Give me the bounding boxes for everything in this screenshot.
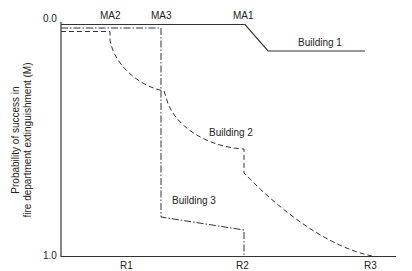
x-tick-r3: R3 (364, 260, 377, 271)
x-tick-r2: R2 (236, 260, 249, 271)
x-tick-r1: R1 (120, 260, 133, 271)
annotation-building-2: Building 2 (209, 127, 253, 138)
y-tick-0: 0.0 (43, 13, 57, 24)
series-building-2 (61, 32, 372, 257)
y-axis-title-line-1: Probability of success in (10, 62, 22, 217)
marker-ma3: MA3 (151, 10, 172, 21)
chart-plot-area (0, 0, 412, 271)
series-building-3 (61, 28, 244, 256)
annotation-building-1: Building 1 (298, 37, 342, 48)
marker-ma1: MA1 (233, 10, 254, 21)
y-tick-1: 1.0 (43, 250, 57, 261)
y-axis-title-line-2: fire department extinguishment (M) (22, 62, 34, 217)
marker-ma2: MA2 (100, 10, 121, 21)
y-axis-title: Probability of success in fire departmen… (10, 62, 34, 217)
annotation-building-3: Building 3 (172, 195, 216, 206)
